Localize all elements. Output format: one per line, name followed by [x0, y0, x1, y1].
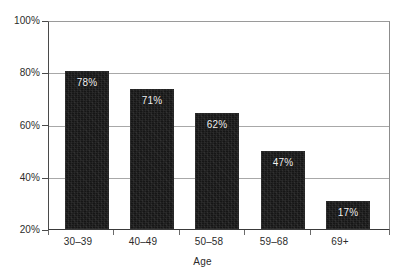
x-axis-tick [48, 230, 49, 235]
y-axis-tick-label: 20% [0, 225, 40, 235]
y-axis-tick-label: 80% [0, 68, 40, 78]
bar-69-plus: 17% [326, 201, 370, 229]
y-axis-tick-label: 60% [0, 121, 40, 131]
x-axis-tick [310, 230, 311, 235]
bar-59-68: 47% [261, 151, 305, 229]
bar-value-label: 71% [130, 95, 174, 106]
bar-value-label: 78% [65, 77, 109, 88]
x-axis-category-label: 40–49 [109, 236, 177, 247]
bar-40-49: 71% [130, 89, 174, 229]
x-axis-title: Age [0, 256, 405, 267]
bar-value-label: 47% [261, 157, 305, 168]
bar-value-label: 62% [195, 119, 239, 130]
x-axis-tick [389, 230, 390, 235]
x-axis-tick [113, 230, 114, 235]
x-axis-category-label: 30–39 [44, 236, 112, 247]
bar-50-58: 62% [195, 113, 239, 229]
x-axis-tick [244, 230, 245, 235]
bar-30-39: 78% [65, 71, 109, 229]
bar-chart: 100% 80% 60% 40% 20% 78% 71% 62% 47% 17% [0, 0, 405, 278]
x-axis-category-label: 69+ [306, 236, 374, 247]
x-axis-category-label: 50–58 [175, 236, 243, 247]
plot-area: 78% 71% 62% 47% 17% [48, 21, 390, 230]
x-axis-category-label: 59–68 [240, 236, 308, 247]
bar-value-label: 17% [326, 207, 370, 218]
y-axis-tick-label: 40% [0, 173, 40, 183]
x-axis-tick [179, 230, 180, 235]
y-axis-tick-label: 100% [0, 16, 40, 26]
